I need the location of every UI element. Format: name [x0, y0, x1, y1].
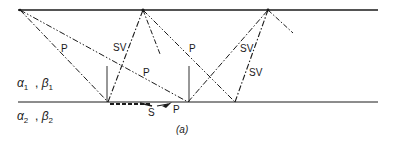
beta-symbol: β [42, 109, 49, 123]
lower-layer-label: α2 , β2 [17, 111, 53, 126]
alpha-symbol: α [17, 76, 24, 90]
ray-label-s-interface: S [148, 108, 155, 118]
alpha-subscript: 1 [24, 83, 28, 92]
ray-sv-up [108, 10, 143, 102]
ray-stub-1 [143, 10, 160, 54]
alpha-symbol: α [17, 109, 24, 123]
ray-label-p-mid: P [143, 68, 150, 78]
ray-sv-up-2 [188, 10, 268, 102]
alpha-subscript: 2 [24, 116, 28, 125]
separator: , [35, 76, 38, 90]
ray-label-sv-right-lower: SV [249, 68, 262, 78]
top-reflection-point-2 [267, 9, 270, 12]
beta-subscript: 1 [49, 83, 53, 92]
source-point [19, 9, 22, 12]
ray-label-sv-right-upper: SV [240, 44, 253, 54]
ray-sv-up-3 [235, 10, 268, 102]
ray-label-p-left: P [61, 44, 68, 54]
figure-caption: (a) [176, 125, 188, 135]
top-reflection-point-1 [141, 8, 144, 11]
beta-symbol: β [42, 76, 49, 90]
beta-subscript: 2 [49, 116, 53, 125]
ray-label-p-right: P [189, 44, 196, 54]
ray-label-sv-left: SV [113, 43, 126, 53]
ray-stub-2 [268, 10, 293, 33]
wave-path-diagram [0, 0, 394, 143]
ray-label-p-interface: P [173, 105, 180, 115]
separator: , [35, 109, 38, 123]
upper-layer-label: α1 , β1 [17, 78, 53, 93]
